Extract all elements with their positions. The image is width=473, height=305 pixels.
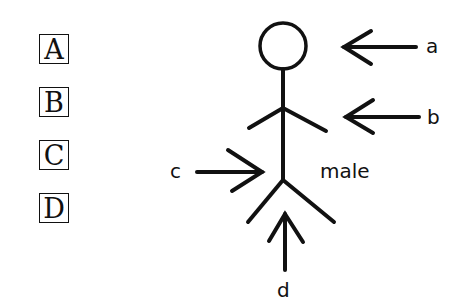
arrow-b-icon bbox=[346, 100, 419, 133]
left-arm bbox=[249, 108, 283, 128]
stick-figure-diagram: a b c d male bbox=[0, 0, 473, 305]
right-arm bbox=[283, 108, 326, 131]
label-b: b bbox=[427, 105, 440, 129]
figure-caption: male bbox=[320, 159, 370, 183]
label-d: d bbox=[277, 278, 290, 302]
right-leg bbox=[283, 180, 334, 222]
label-a: a bbox=[426, 34, 438, 58]
arrow-c-icon bbox=[197, 150, 262, 191]
head-circle bbox=[260, 23, 306, 69]
arrow-d-icon bbox=[269, 214, 303, 270]
left-leg bbox=[248, 180, 283, 222]
arrow-a-icon bbox=[344, 31, 416, 64]
label-c: c bbox=[170, 159, 181, 183]
stick-figure bbox=[248, 23, 334, 222]
